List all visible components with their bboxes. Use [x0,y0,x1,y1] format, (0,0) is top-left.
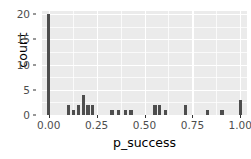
x-axis-tick-mark [145,115,146,118]
x-axis-tick-label: 0.50 [133,119,156,131]
gridline-vertical-major [97,11,98,115]
histogram-bar [82,95,85,115]
histogram-bar [86,105,89,115]
y-axis-tick-label: 5 [23,84,30,96]
x-axis-tick-mark [49,115,50,118]
y-axis-tick-labels: 05101520 [16,11,36,115]
x-axis-tick-label: 0.00 [37,119,60,131]
x-axis-tick-label: 0.75 [181,119,204,131]
histogram-plot: count 05101520 0.000.250.500.751.00 p_su… [0,0,251,159]
histogram-bar [158,105,161,115]
histogram-bar [239,100,242,115]
histogram-bar [47,14,50,115]
gridline-vertical-minor [73,11,74,115]
y-axis-tick-label: 15 [17,33,30,45]
y-axis-tick-mark [33,14,36,15]
x-axis-tick-label: 1.00 [229,119,251,131]
y-axis-tick-label: 0 [23,109,30,121]
gridline-vertical-minor [216,11,217,115]
y-axis-tick-mark [33,39,36,40]
gridline-vertical-major [192,11,193,115]
y-axis-tick-mark [33,115,36,116]
histogram-bar [77,105,80,115]
gridline-vertical-minor [121,11,122,115]
histogram-bar [153,105,156,115]
x-axis-tick-mark [192,115,193,118]
x-axis-tick-mark [97,115,98,118]
y-axis-tick-label: 20 [17,8,30,20]
x-axis-tick-labels: 0.000.250.500.751.00 [42,119,247,133]
y-axis-tick-mark [33,64,36,65]
x-axis-tick-label: 0.25 [85,119,108,131]
y-axis-tick-mark [33,89,36,90]
histogram-bar [184,105,187,115]
gridline-vertical-major [145,11,146,115]
gridline-vertical-minor [168,11,169,115]
x-axis-title: p_success [42,135,247,150]
x-axis-tick-mark [240,115,241,118]
histogram-bar [67,105,70,115]
histogram-bar [91,105,94,115]
y-axis-tick-label: 10 [17,59,30,71]
plot-panel [42,11,247,115]
